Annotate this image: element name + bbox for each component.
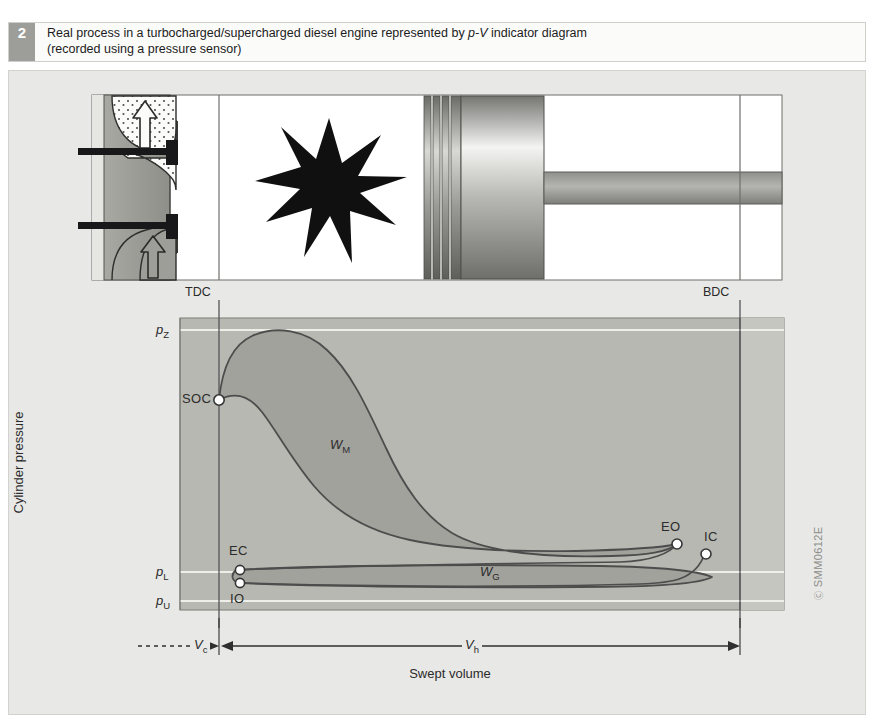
tdc-label: TDC: [185, 285, 211, 299]
pressure-label-pz: pZ: [156, 322, 169, 340]
figure-panel: [8, 70, 866, 715]
bdc-label: BDC: [703, 285, 729, 299]
caption-line2: (recorded using a pressure sensor): [47, 42, 242, 56]
point-label-ic: IC: [704, 529, 718, 544]
y-axis-title: Cylinder pressure: [11, 383, 26, 543]
pressure-label-pl: pL: [156, 564, 169, 582]
point-label-soc: SOC: [182, 391, 211, 406]
figure-number-badge: 2: [9, 23, 35, 61]
volume-label-vh: Vh: [462, 637, 482, 655]
caption-line1-pre: Real process in a turbocharged/superchar…: [47, 26, 468, 40]
work-label-wg: WG: [480, 564, 500, 582]
x-axis-title: Swept volume: [330, 666, 570, 681]
point-label-ec: EC: [229, 543, 248, 558]
caption-line1-italic: p-V: [468, 26, 487, 40]
work-label-wm: WM: [330, 437, 350, 455]
figure-page: 2 Real process in a turbocharged/superch…: [0, 0, 881, 724]
copyright-icon: Ⓒ: [814, 591, 824, 600]
pressure-label-pu: pU: [156, 593, 170, 611]
point-label-io: IO: [230, 591, 244, 606]
source-code-text: SMM0612E: [812, 526, 824, 587]
source-code-label: Ⓒ SMM0612E: [812, 480, 825, 600]
figure-caption-bar: 2 Real process in a turbocharged/superch…: [8, 22, 866, 62]
figure-caption-text: Real process in a turbocharged/superchar…: [35, 23, 865, 61]
volume-label-vc: Vc: [191, 637, 210, 655]
caption-line1-post: indicator diagram: [488, 26, 587, 40]
point-label-eo: EO: [661, 519, 680, 534]
